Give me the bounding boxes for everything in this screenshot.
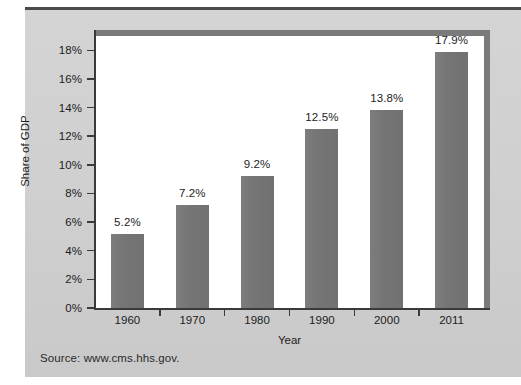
bar-chart: Share of GDP 0%2%4%6%8%10%12%14%16%18% 5… xyxy=(0,0,521,385)
x-axis-tick xyxy=(159,309,161,316)
y-axis-tick-label: 12% xyxy=(36,130,82,142)
x-axis-tick-label: 1970 xyxy=(162,314,222,326)
bar xyxy=(111,234,144,308)
bar-value-label: 7.2% xyxy=(162,187,222,199)
x-axis-tick xyxy=(354,309,356,316)
y-axis-tick xyxy=(87,193,94,195)
x-axis-tick xyxy=(418,309,420,316)
y-axis-tick xyxy=(87,164,94,166)
y-axis-tick xyxy=(87,250,94,252)
bar-value-label: 13.8% xyxy=(357,92,417,104)
bar xyxy=(305,129,338,308)
y-axis-tick xyxy=(87,107,94,109)
x-axis-line xyxy=(94,308,490,310)
bar xyxy=(241,176,274,308)
x-axis-tick-label: 2000 xyxy=(357,314,417,326)
y-axis-tick-label: 8% xyxy=(36,187,82,199)
y-axis-tick-label: 6% xyxy=(36,216,82,228)
x-axis-tick-label: 2011 xyxy=(422,314,482,326)
y-axis-tick-label: 0% xyxy=(36,302,82,314)
x-axis-tick-label: 1960 xyxy=(97,314,157,326)
bar xyxy=(370,110,403,308)
x-axis-tick xyxy=(224,309,226,316)
y-axis-tick xyxy=(87,307,94,309)
y-axis-line xyxy=(94,30,96,309)
y-axis-tick-label: 10% xyxy=(36,159,82,171)
y-axis-tick xyxy=(87,279,94,281)
x-axis-tick-label: 1990 xyxy=(292,314,352,326)
bar-value-label: 12.5% xyxy=(292,111,352,123)
y-axis-tick-label: 14% xyxy=(36,102,82,114)
y-axis-tick xyxy=(87,221,94,223)
y-axis-tick xyxy=(87,50,94,52)
x-axis-tick-label: 1980 xyxy=(227,314,287,326)
y-axis-tick xyxy=(87,135,94,137)
x-axis-tick xyxy=(289,309,291,316)
y-axis-title: Share of GDP xyxy=(19,91,31,211)
screenshot-root: Share of GDP 0%2%4%6%8%10%12%14%16%18% 5… xyxy=(0,0,521,385)
bar xyxy=(176,205,209,308)
x-axis-title: Year xyxy=(95,334,484,346)
source-note: Source: www.cms.hhs.gov. xyxy=(40,352,180,364)
bar xyxy=(435,52,468,308)
y-axis-tick-label: 18% xyxy=(36,44,82,56)
bar-value-label: 17.9% xyxy=(422,34,482,46)
y-axis-tick-label: 4% xyxy=(36,245,82,257)
bar-value-label: 5.2% xyxy=(97,216,157,228)
plot-area xyxy=(95,36,484,309)
bar-value-label: 9.2% xyxy=(227,158,287,170)
y-axis-tick-labels: 0%2%4%6%8%10%12%14%16%18% xyxy=(36,0,82,385)
y-axis-tick xyxy=(87,78,94,80)
y-axis-tick-label: 16% xyxy=(36,73,82,85)
y-axis-tick-label: 2% xyxy=(36,273,82,285)
